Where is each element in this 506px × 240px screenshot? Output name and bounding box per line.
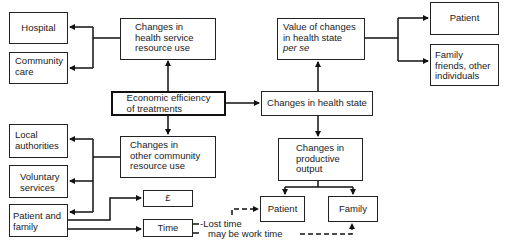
patient-and-family-box: Patient and family (9, 204, 68, 237)
community-care-label-2: care (15, 67, 62, 78)
patient-and-family-label-1: Patient and (13, 211, 62, 222)
value-patient-label: Patient (450, 13, 480, 24)
community-care-box: Community care (9, 52, 68, 84)
productive-output-label-1: Changes in (296, 143, 357, 154)
local-authorities-label-2: authorities (15, 141, 62, 152)
other-community-label-3: resource use (130, 161, 210, 172)
voluntary-services-box: Voluntary services (9, 165, 68, 198)
output-family-box: Family (328, 196, 378, 222)
other-community-label-1: Changes in (130, 140, 210, 151)
time-box: Time (143, 219, 193, 237)
pound-sign-label: £ (165, 193, 170, 204)
health-state-label: Changes in health state (267, 98, 367, 109)
economic-efficiency-label: Economic efficiency (127, 93, 211, 104)
health-state-box: Changes in health state (261, 91, 373, 116)
hospital-label: Hospital (21, 23, 55, 34)
local-authorities-label-1: Local (15, 130, 62, 141)
value-patient-box: Patient (430, 2, 499, 35)
local-authorities-box: Local authorities (9, 124, 68, 158)
health-service-label-1: Changes in (135, 22, 210, 33)
value-family-label-1: Family (435, 50, 493, 61)
value-changes-label-3: per se (283, 43, 359, 54)
output-patient-label: Patient (268, 204, 298, 215)
voluntary-services-label-1: Voluntary (20, 172, 62, 183)
value-family-box: Family friends, other individuals (430, 44, 499, 86)
work-time-annotation: may be work time (208, 229, 282, 239)
value-of-changes-box: Value of changes in health state per se (277, 18, 365, 60)
patient-and-family-label-2: family (13, 222, 62, 233)
money-box: £ (143, 190, 193, 207)
economic-efficiency-box: Economic efficiency of treatments (111, 91, 226, 116)
hospital-box: Hospital (9, 12, 68, 44)
productive-output-box: Changes in productive output (278, 138, 363, 181)
value-family-label-3: individuals (435, 71, 493, 82)
output-family-label: Family (339, 204, 367, 215)
other-community-resource-box: Changes in other community resource use (120, 136, 216, 178)
productive-output-label-3: output (296, 164, 357, 175)
economic-efficiency-label-2: of treatments (127, 104, 211, 115)
value-changes-label-1: Value of changes (283, 22, 359, 33)
output-patient-box: Patient (260, 196, 305, 222)
community-care-label-1: Community (15, 56, 62, 67)
time-label: Time (158, 223, 179, 234)
health-service-resource-box: Changes in health service resource use (120, 18, 216, 60)
voluntary-services-label-2: services (20, 183, 62, 194)
health-service-label-3: resource use (135, 43, 210, 54)
connector-lines (0, 0, 506, 240)
